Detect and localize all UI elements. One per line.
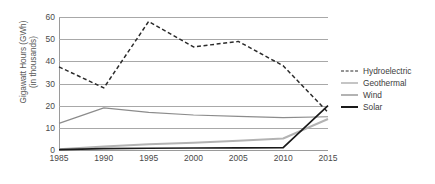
legend-item-wind[interactable]: Wind	[341, 90, 435, 101]
y-axis-tick-label: 40	[35, 56, 55, 66]
legend-item-solar[interactable]: Solar	[341, 102, 435, 113]
legend-item-hydroelectric[interactable]: Hydroelectric	[341, 66, 435, 77]
legend-swatch-icon	[341, 67, 358, 75]
plot-area	[59, 17, 328, 150]
x-axis-tick-label: 2015	[319, 153, 338, 163]
legend-swatch-icon	[341, 103, 358, 111]
x-axis-tick-label: 1995	[139, 153, 158, 163]
legend: HydroelectricGeothermalWindSolar	[341, 66, 435, 114]
series-line-geothermal	[59, 108, 328, 124]
legend-swatch-icon	[341, 79, 358, 87]
legend-item-label: Wind	[363, 90, 382, 100]
legend-item-label: Geothermal	[363, 78, 406, 88]
x-axis-tick-label: 2010	[274, 153, 293, 163]
legend-swatch-icon	[341, 91, 358, 99]
gridline	[59, 150, 328, 151]
x-axis-tick-label: 1985	[50, 153, 69, 163]
y-axis-tick-label: 30	[35, 79, 55, 89]
y-axis-tick-labels: 0102030405060	[30, 17, 55, 150]
series-line-wind	[59, 119, 328, 149]
legend-item-label: Hydroelectric	[363, 66, 411, 76]
x-axis-tick-label: 1990	[94, 153, 113, 163]
y-axis-tick-label: 10	[35, 123, 55, 133]
y-axis-title-line1: Gigawatt Hours (GWh)	[19, 21, 30, 104]
line-chart: Gigawatt Hours (GWh) (in thousands) 0102…	[0, 0, 435, 184]
y-axis-tick-label: 20	[35, 101, 55, 111]
y-axis-tick-label: 50	[35, 34, 55, 44]
legend-item-label: Solar	[363, 102, 382, 112]
x-axis-tick-labels: 1985199019952000200520102015	[59, 153, 328, 167]
series-layer	[59, 17, 328, 150]
x-axis-tick-label: 2000	[184, 153, 203, 163]
series-line-hydroelectric	[59, 21, 328, 112]
legend-item-geothermal[interactable]: Geothermal	[341, 78, 435, 89]
y-axis-tick-label: 60	[35, 12, 55, 22]
x-axis-tick-label: 2005	[229, 153, 248, 163]
